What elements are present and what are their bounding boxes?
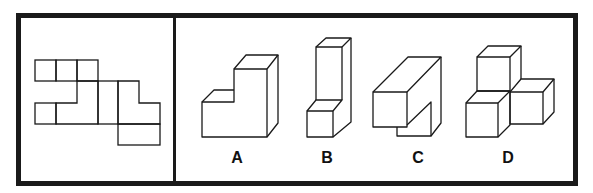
net-diagram — [35, 60, 160, 145]
option-d-shape[interactable] — [466, 46, 554, 137]
outer-frame — [19, 16, 576, 184]
option-c-shape[interactable] — [373, 57, 441, 136]
option-c-label: C — [408, 150, 428, 166]
option-d-label: D — [498, 150, 518, 166]
option-b-shape[interactable] — [307, 38, 351, 137]
option-a-shape[interactable] — [202, 55, 278, 137]
puzzle-figure: A B C D — [0, 0, 593, 193]
option-a-label: A — [227, 150, 247, 166]
option-b-label: B — [317, 150, 337, 166]
